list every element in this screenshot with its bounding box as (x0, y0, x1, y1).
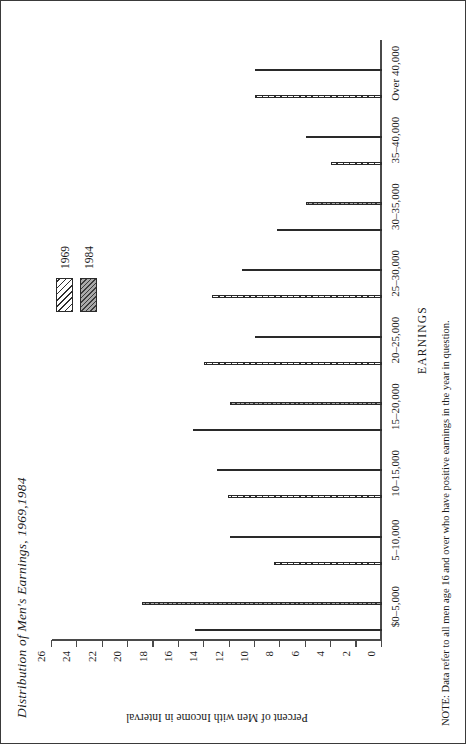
y-axis-tick (51, 640, 52, 647)
bar-group: $0–5,000 (52, 573, 382, 640)
bar-group: 15–20,000 (52, 373, 382, 440)
bar-1984-1 (230, 536, 382, 539)
bar-1984-3 (230, 402, 382, 405)
bar-group: 20–25,000 (52, 307, 382, 374)
y-axis-tick (381, 640, 382, 647)
legend-label-1984: 1984 (83, 246, 95, 269)
y-axis-tick (229, 640, 230, 647)
x-axis-category-label: 15–20,000 (389, 383, 401, 430)
bar-1984-0 (142, 602, 382, 605)
bar-1969-0 (195, 629, 382, 632)
legend-item-1969: 1969 (56, 246, 73, 312)
bar-1984-5 (242, 269, 382, 272)
x-axis-category-label: 35–40,000 (389, 117, 401, 164)
legend-item-1984: 1984 (80, 246, 97, 312)
y-axis-tick-label: 24 (61, 651, 72, 662)
y-axis-tick-label: 4 (315, 651, 326, 657)
bar-1969-3 (193, 429, 382, 432)
x-axis-category-label: 20–25,000 (389, 317, 401, 364)
x-axis-category-label: Over 40,000 (389, 46, 401, 101)
y-axis-tick (330, 640, 331, 647)
y-axis-tick (102, 640, 103, 647)
x-axis-category-label: 30–35,000 (389, 183, 401, 230)
figure-note: NOTE: Data refer to all men age 16 and o… (440, 320, 451, 726)
rotated-figure-wrapper: Distribution of Men's Earnings, 1969,198… (0, 0, 466, 744)
x-axis-category-label: 25–30,000 (389, 250, 401, 297)
y-axis-tick-label: 10 (239, 651, 250, 662)
y-axis-tick (76, 640, 77, 647)
figure-note-lead: NOTE: (440, 695, 451, 726)
figure: Distribution of Men's Earnings, 1969,198… (0, 0, 466, 744)
y-axis-tick-label: 6 (289, 651, 300, 657)
legend-swatch-icon-1969 (56, 278, 73, 312)
y-axis-tick (203, 640, 204, 647)
bar-1969-2 (228, 496, 382, 499)
x-axis-category-label: $0–5,000 (389, 586, 401, 627)
y-axis-tick-label: 2 (340, 651, 351, 657)
bar-1984-7 (306, 136, 382, 139)
y-axis-tick-label: 20 (112, 651, 123, 662)
chart-plot-area: 02468101214161820222426 $0–5,0005–10,000… (52, 40, 382, 640)
y-axis-tick (127, 640, 128, 647)
figure-page-border: Distribution of Men's Earnings, 1969,198… (0, 0, 466, 744)
y-axis-tick-label: 14 (188, 651, 199, 662)
chart-plot-inner: 02468101214161820222426 $0–5,0005–10,000… (52, 40, 382, 640)
y-axis-tick-label: 18 (137, 651, 148, 662)
y-axis-tick (254, 640, 255, 647)
y-axis-tick-label: 22 (86, 651, 97, 662)
bar-1984-6 (306, 202, 382, 205)
y-axis-tick-label: 16 (162, 651, 173, 662)
y-axis-tick-label: 12 (213, 651, 224, 662)
bar-1984-2 (217, 469, 382, 472)
x-axis-category-label: 5–10,000 (389, 519, 401, 560)
bar-group: 10–15,000 (52, 440, 382, 507)
y-axis-tick (355, 640, 356, 647)
y-axis-tick (178, 640, 179, 647)
bar-1969-1 (274, 562, 382, 565)
y-axis-tick (279, 640, 280, 647)
chart-legend: 1969 1984 (56, 246, 104, 312)
legend-label-1969: 1969 (59, 246, 71, 269)
y-axis-tick-label: 26 (36, 651, 47, 662)
bar-1984-4 (255, 336, 382, 339)
y-axis-tick-label: 8 (264, 651, 275, 657)
figure-title: Distribution of Men's Earnings, 1969,198… (14, 477, 30, 718)
bar-group: 35–40,000 (52, 107, 382, 174)
x-axis-category-label: 10–15,000 (389, 450, 401, 497)
bar-1969-6 (277, 229, 382, 232)
bar-group: 30–35,000 (52, 173, 382, 240)
bar-group: 5–10,000 (52, 507, 382, 574)
bar-1984-8 (255, 69, 382, 72)
legend-swatch-icon-1984 (80, 278, 97, 312)
bar-1969-7 (331, 162, 382, 165)
y-axis-label: Percent of Men with Income in Interval (126, 712, 308, 724)
y-axis-tick-label: 0 (366, 651, 377, 657)
bar-group: Over 40,000 (52, 40, 382, 107)
y-axis-tick (152, 640, 153, 647)
bar-1969-4 (204, 362, 382, 365)
figure-note-text: Data refer to all men age 16 and over wh… (440, 320, 451, 692)
y-axis-tick (305, 640, 306, 647)
x-axis-label: EARNINGS (416, 306, 428, 374)
bar-1969-8 (255, 96, 382, 99)
bar-1969-5 (212, 296, 382, 299)
